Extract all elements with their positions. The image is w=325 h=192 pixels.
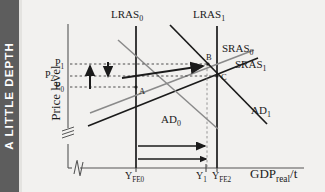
sidebar-tab-label: A LITTLE DEPTH <box>0 0 19 192</box>
label-ad0: AD0 <box>161 113 181 128</box>
price-tick-p1: P1 <box>55 57 64 71</box>
output-tick-yfe0: YFE0 <box>125 170 144 184</box>
output-tick-y1: Y1 <box>196 170 207 184</box>
output-tick-yfe2: YFE2 <box>212 170 231 184</box>
x-axis-label: GDPreal/t <box>250 166 297 184</box>
label-sras0: SRAS0 <box>222 42 253 57</box>
label-lras0: LRAS0 <box>111 8 143 23</box>
diagram-canvas <box>22 0 325 192</box>
point-label-a: A <box>139 86 145 96</box>
curve-sras0 <box>90 50 254 113</box>
price-tick-p0: P0 <box>55 80 64 94</box>
label-ad1: AD1 <box>251 104 271 119</box>
point-label-c: C <box>221 72 227 82</box>
figure-page: A LITTLE DEPTH <box>0 0 325 192</box>
point-label-b: B <box>206 52 212 62</box>
ad-as-diagram: Price level LRAS0 LRAS1 SRAS0 SRAS1 AD0 … <box>22 0 325 192</box>
x-axis-break-mark <box>74 160 83 176</box>
label-sras1: SRAS1 <box>235 58 266 73</box>
sidebar-tab: A LITTLE DEPTH <box>0 0 19 192</box>
price-tick-p2: P2 <box>45 69 54 83</box>
label-lras1: LRAS1 <box>193 8 225 23</box>
